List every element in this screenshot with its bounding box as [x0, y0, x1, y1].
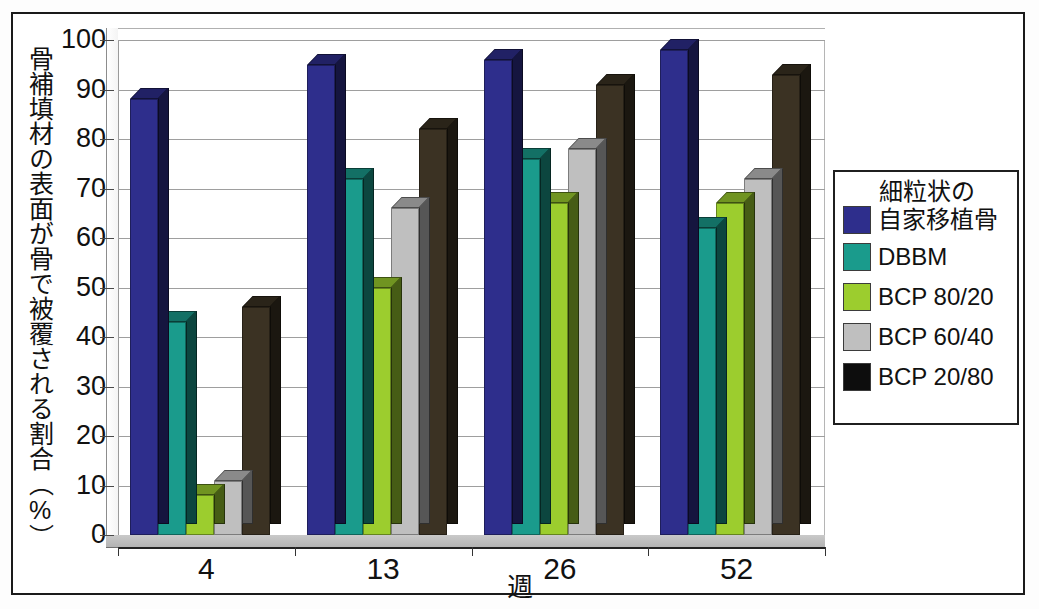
- bar-side-face: [391, 277, 402, 525]
- bar: [307, 65, 335, 535]
- legend-swatch: [843, 243, 871, 271]
- bar-side-face: [512, 49, 523, 524]
- plot-canvas: [118, 40, 825, 535]
- legend-item: BCP 60/40: [843, 317, 1011, 357]
- gridline: [118, 139, 825, 140]
- bar: [660, 50, 688, 535]
- gridline: [118, 189, 825, 190]
- bar-side-face: [158, 88, 169, 524]
- bar-front-face: [484, 60, 512, 535]
- y-tick-mark: [100, 90, 114, 91]
- y-tick-mark: [100, 387, 114, 388]
- bar-side-face: [363, 168, 374, 524]
- legend-swatch: [843, 206, 871, 234]
- y-tick-label: 90: [46, 76, 106, 103]
- y-tick-label: 30: [46, 373, 106, 400]
- y-tick-label: 40: [46, 323, 106, 350]
- bar-side-face: [270, 296, 281, 524]
- legend-swatch: [843, 363, 871, 391]
- legend-label: DBBM: [878, 245, 947, 269]
- y-tick-label: 50: [46, 274, 106, 301]
- legend-label: BCP 80/20: [878, 285, 994, 309]
- bar-front-face: [307, 65, 335, 535]
- x-axis-title: 週: [0, 566, 1039, 603]
- legend-item: 自家移植骨: [843, 203, 1011, 237]
- y-tick-mark: [100, 189, 114, 190]
- x-tick-mark: [648, 547, 649, 556]
- y-tick-mark: [100, 486, 114, 487]
- bar-side-face: [772, 168, 783, 524]
- y-tick-mark: [100, 436, 114, 437]
- bar-side-face: [186, 311, 197, 524]
- x-tick-mark: [472, 547, 473, 556]
- legend-label: 自家移植骨: [878, 208, 998, 232]
- gridline: [118, 40, 825, 41]
- y-tick-mark: [100, 337, 114, 338]
- legend-items: 自家移植骨DBBMBCP 80/20BCP 60/40BCP 20/80: [843, 203, 1011, 397]
- y-axis-title: 骨補填材の表面が骨で被覆される割合（%）: [16, 46, 52, 546]
- bar: [130, 99, 158, 535]
- y-tick-label: 20: [46, 422, 106, 449]
- legend-swatch: [843, 323, 871, 351]
- y-tick-label: 100: [46, 26, 106, 53]
- x-tick-mark: [118, 547, 119, 556]
- bar-side-face: [568, 192, 579, 524]
- legend: 細粒状の 自家移植骨DBBMBCP 80/20BCP 60/40BCP 20/8…: [833, 170, 1019, 425]
- y-tick-mark: [100, 535, 114, 536]
- bar-side-face: [624, 74, 635, 524]
- bar: [484, 60, 512, 535]
- x-tick-mark: [825, 547, 826, 556]
- gridline: [118, 90, 825, 91]
- legend-item: BCP 20/80: [843, 357, 1011, 397]
- bar-front-face: [660, 50, 688, 535]
- chart-figure: 1009080706050403020100 骨補填材の表面が骨で被覆される割合…: [0, 0, 1039, 609]
- y-tick-mark: [100, 288, 114, 289]
- y-tick-mark: [100, 139, 114, 140]
- bar-side-face: [419, 197, 430, 524]
- legend-label: BCP 60/40: [878, 325, 994, 349]
- bar-side-face: [716, 217, 727, 524]
- bar-side-face: [447, 118, 458, 524]
- bar-side-face: [540, 148, 551, 524]
- legend-swatch: [843, 283, 871, 311]
- y-tick-label: 60: [46, 224, 106, 251]
- bar-side-face: [596, 138, 607, 524]
- bar-side-face: [744, 192, 755, 524]
- y-tick-label: 0: [46, 521, 106, 548]
- y-tick-label: 70: [46, 175, 106, 202]
- bar-side-face: [800, 64, 811, 524]
- y-tick-label: 10: [46, 472, 106, 499]
- y-tick-mark: [100, 238, 114, 239]
- y-tick-label: 80: [46, 125, 106, 152]
- bar-side-face: [688, 39, 699, 524]
- bar-front-face: [130, 99, 158, 535]
- legend-title-line1: 細粒状の: [879, 180, 1011, 205]
- x-tick-mark: [295, 547, 296, 556]
- legend-item: DBBM: [843, 237, 1011, 277]
- legend-label: BCP 20/80: [878, 365, 994, 389]
- plot-depth-left: [106, 28, 118, 535]
- legend-item: BCP 80/20: [843, 277, 1011, 317]
- bar-side-face: [335, 54, 346, 524]
- legend-title: 細粒状の: [879, 180, 1011, 205]
- y-tick-mark: [100, 40, 114, 41]
